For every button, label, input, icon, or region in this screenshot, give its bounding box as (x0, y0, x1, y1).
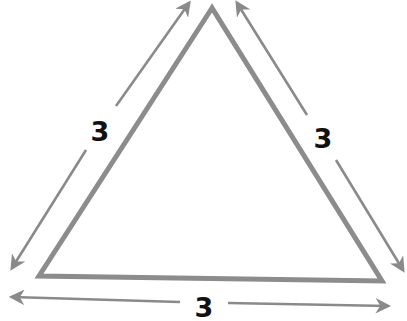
right-side-length-label: 3 (314, 125, 333, 152)
triangle-svg (0, 0, 407, 321)
triangle-diagram: 3 3 3 (0, 0, 407, 321)
bottom-side-length-label: 3 (195, 294, 214, 321)
left-side-length-label: 3 (91, 118, 110, 145)
